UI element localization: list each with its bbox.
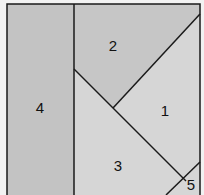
region-label-4: 4 — [36, 99, 44, 116]
partition-diagram: 2 4 1 3 5 — [0, 0, 204, 195]
region-label-3: 3 — [114, 157, 122, 174]
region-label-5: 5 — [187, 176, 195, 193]
region-label-2: 2 — [109, 37, 117, 54]
region-label-1: 1 — [161, 102, 169, 119]
